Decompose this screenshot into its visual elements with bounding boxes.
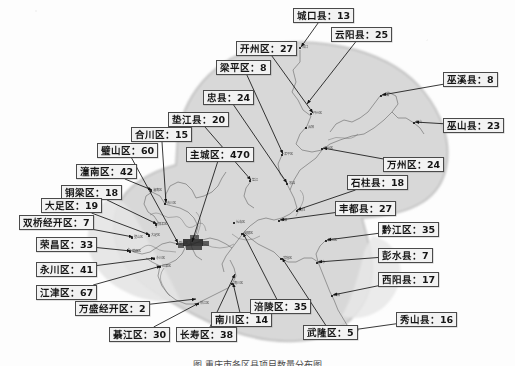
callout-dazu[interactable]: 大足区：19: [41, 198, 102, 213]
leader-line-zhongxian: [234, 105, 287, 183]
callout-yunyang[interactable]: 云阳县：25: [331, 27, 392, 42]
figure-caption: 图 重庆市各区县项目数量分布图: [0, 358, 515, 366]
callout-youyang[interactable]: 西阳县：17: [378, 272, 439, 287]
leader-line-nanchuan: [233, 283, 240, 312]
leader-line-tongnan: [125, 179, 152, 190]
leader-line-pengshui: [318, 258, 378, 263]
callout-liangping[interactable]: 梁平区：8: [216, 60, 271, 75]
callout-wanzhou[interactable]: 万州区：24: [383, 157, 444, 172]
callout-wulong[interactable]: 武隆区：5: [303, 325, 358, 340]
leader-line-youyang: [333, 286, 378, 295]
leader-line-zhucheng: [192, 162, 218, 242]
leader-line-chengkou: [301, 23, 318, 47]
leader-line-shuangqiao: [94, 230, 133, 237]
callout-jiangjin[interactable]: 江津区：67: [36, 285, 97, 300]
callout-shuangqiao[interactable]: 双桥经开区：7: [19, 215, 94, 230]
callout-kaizhou[interactable]: 开州区：27: [236, 41, 297, 56]
callout-bishan[interactable]: 璧山区：60: [97, 143, 158, 158]
leader-line-rongchang: [97, 248, 131, 251]
callout-fuling[interactable]: 涪陵区：35: [250, 299, 311, 314]
callout-fengdu[interactable]: 丰都县：27: [335, 201, 396, 216]
leader-line-hechuan: [162, 142, 166, 203]
callout-wuxi[interactable]: 巫溪县：8: [443, 72, 498, 87]
leader-line-wansheng: [150, 299, 196, 304]
callout-chengkou[interactable]: 城口县：13: [293, 8, 354, 23]
callout-zhongxian[interactable]: 忠县：24: [203, 90, 254, 105]
callout-changshou[interactable]: 长寿区：38: [176, 327, 237, 342]
leader-line-fengdu: [280, 213, 335, 220]
leader-line-xiushan: [352, 324, 396, 330]
leader-line-kaizhou: [272, 56, 313, 113]
leader-line-wushan: [415, 122, 443, 124]
callout-shizhu[interactable]: 石柱县：18: [347, 175, 408, 190]
leader-line-qijiang: [154, 303, 199, 327]
leader-line-fuling: [243, 233, 277, 299]
callout-tongnan[interactable]: 潼南区：42: [76, 164, 137, 179]
leader-line-liangping: [247, 75, 283, 154]
leader-line-yunyang: [307, 42, 356, 104]
leader-line-wuxi: [382, 84, 443, 95]
leader-line-wulong: [282, 258, 326, 325]
callout-nanchuan[interactable]: 南川区：14: [211, 312, 272, 327]
callout-pengshui[interactable]: 彭水县：7: [378, 248, 433, 263]
callout-xiushan[interactable]: 秀山县：16: [396, 312, 457, 327]
callout-wushan[interactable]: 巫山县：23: [443, 118, 504, 133]
leader-line-wanzhou: [323, 148, 383, 159]
callout-qianjiang[interactable]: 黔江区：35: [378, 222, 439, 237]
leader-line-jiangjin: [93, 266, 161, 285]
callout-dianjiang[interactable]: 垫江县：20: [168, 112, 229, 127]
callout-qijiang[interactable]: 綦江区：30: [109, 327, 170, 342]
leader-line-yongchuan: [97, 258, 155, 266]
callout-wansheng[interactable]: 万盛经开区：2: [75, 301, 150, 316]
callout-zhucheng[interactable]: 主城区：470: [186, 147, 254, 162]
callout-yongchuan[interactable]: 永川区：41: [36, 262, 97, 277]
leader-line-qianjiang: [327, 233, 378, 240]
figure-canvas: 城口开州区梁平区忠县垫江巫溪巫山云阳万州区石柱丰都黔江区彭水西阳秀山武隆区涪陵区…: [0, 0, 515, 366]
callout-rongchang[interactable]: 荣昌区：33: [36, 237, 97, 252]
callout-hechuan[interactable]: 合川区：15: [131, 127, 192, 142]
leader-line-tongliang: [107, 200, 157, 224]
